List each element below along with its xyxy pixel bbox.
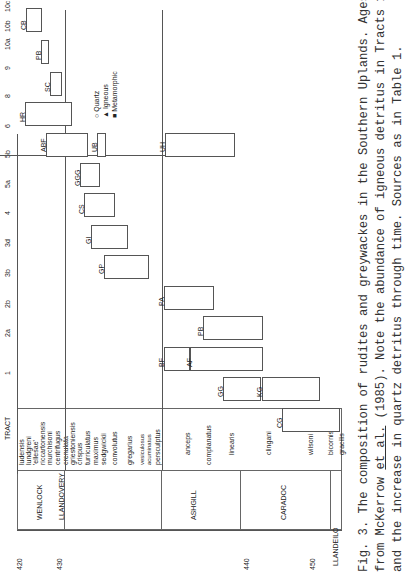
zone-label: gregarius <box>126 436 133 465</box>
zone-label: wilsoni <box>307 434 314 455</box>
quartz-icon: ○ <box>93 114 100 118</box>
unit-box-sc <box>50 72 62 96</box>
legend-igneous: ▲ Igneous <box>102 84 109 118</box>
unit-box-hr <box>25 102 72 126</box>
unit-label: KG <box>256 387 263 397</box>
unit-label: GGG <box>74 170 81 186</box>
igneous-icon: ▲ <box>102 111 109 118</box>
unit-box-af <box>190 347 263 371</box>
unit-box-ggg <box>80 163 100 187</box>
unit-label: CG <box>276 418 283 429</box>
unit-label: HR <box>19 112 26 122</box>
age-tick-440: 440 <box>243 558 250 570</box>
zone-label: acuminatus <box>146 434 152 465</box>
tract-label: 2a <box>4 329 11 337</box>
age-tick-420: 420 <box>16 558 23 570</box>
series-ashgill <box>161 470 241 530</box>
zone-label: bicornis <box>327 431 334 455</box>
tract-label: 3b <box>4 269 11 277</box>
tract-label-text: 4 <box>4 211 11 215</box>
unit-box-cg <box>282 408 340 432</box>
zone-label: riccartonensis <box>39 422 46 465</box>
caption-text: from McKerrow <box>374 470 388 572</box>
unit-label: PA <box>158 297 165 306</box>
zone-label: anceps <box>184 432 191 455</box>
zone-label: complanatus <box>205 425 212 465</box>
series-label: ASHGILL <box>190 490 197 520</box>
zone-label: linearis <box>228 433 235 455</box>
zone-label: centrifugus <box>54 431 61 465</box>
series-llandeilo <box>330 470 342 530</box>
zone-label: convolutus <box>111 432 118 465</box>
tract-boundary <box>162 10 163 470</box>
figure-caption-line-1: Fig. 3. The composition of rudites and g… <box>356 0 373 572</box>
series-label: LLANDEILO <box>332 527 339 566</box>
zone-label: persculptus <box>154 429 161 465</box>
unit-label: BF <box>158 358 165 367</box>
zone-label: griestoniensis <box>69 422 76 465</box>
tract-label: 10c <box>4 1 11 12</box>
unit-label: CB <box>20 20 27 30</box>
legend-label: Igneous <box>102 84 109 109</box>
series-label: CARADOC <box>280 485 287 520</box>
series-label: WENLOCK <box>36 485 43 520</box>
unit-box-cs <box>84 193 115 217</box>
unit-label: SC <box>44 82 51 92</box>
unit-box-uh <box>165 133 235 157</box>
tract-label: 1 <box>4 371 11 375</box>
unit-box-cb <box>26 8 42 32</box>
zone-label: lundgreni <box>25 436 32 465</box>
tract-label: 2b <box>4 300 11 308</box>
zone-label: gracilis <box>338 433 345 455</box>
tract-boundary <box>65 10 66 470</box>
unit-label: PB <box>35 51 42 60</box>
figure-caption-line-2: from McKerrow et al. (1985). Note the ab… <box>373 0 390 572</box>
zone-label: sedgwickii <box>100 433 107 465</box>
zone-label: maximus <box>92 437 99 465</box>
tract-label: 10b <box>4 20 11 32</box>
tract-label: 9 <box>4 66 11 70</box>
legend-quartz: ○ Quartz <box>93 91 100 118</box>
unit-label: AF <box>186 358 193 367</box>
legend-metamorphic: ■ Metamorphic <box>111 71 118 118</box>
unit-label: ABF <box>40 138 47 152</box>
tract-label: 8 <box>4 94 11 98</box>
legend-label: Quartz <box>93 91 100 112</box>
tract-label: 5a <box>4 180 11 188</box>
series-llandovery <box>64 470 162 530</box>
unit-box-gp <box>104 255 149 279</box>
unit-label: UB <box>91 142 98 152</box>
unit-box-ub <box>97 133 106 157</box>
caption-citation: et al. <box>374 426 388 470</box>
unit-box-pb2 <box>203 316 263 340</box>
unit-label: CS <box>78 204 85 214</box>
zone-label: crispus <box>76 443 83 465</box>
zone-label: ludensis <box>18 439 25 465</box>
tract-label: 3d <box>4 239 11 247</box>
unit-box-pa <box>164 286 214 310</box>
zone-label: 'ellesae' <box>32 440 39 465</box>
metamorphic-icon: ■ <box>111 114 118 118</box>
age-tick-430: 430 <box>56 558 63 570</box>
legend-label: Metamorphic <box>111 71 118 111</box>
unit-label: GP <box>98 264 105 274</box>
tract-boundary <box>17 134 18 474</box>
series-label: LLANDOVERY <box>58 473 65 520</box>
unit-label: GI <box>85 237 92 244</box>
unit-label: GG <box>217 386 224 397</box>
tract-axis-label: TRACT <box>4 417 11 440</box>
unit-label: UH <box>159 142 166 152</box>
unit-box-abf <box>46 133 88 157</box>
age-tick-450: 450 <box>309 558 316 570</box>
figure-caption-line-3: and the increase in quartz detritus thro… <box>390 45 407 572</box>
zone-label: vesiculosus <box>139 434 145 465</box>
unit-box-gi <box>91 225 128 249</box>
caption-text: (1985). Note the abundance of igneous de… <box>374 0 388 426</box>
unit-box-pb <box>41 40 49 64</box>
zone-label: clingani <box>265 431 272 455</box>
zone-label: murchisoni <box>46 431 53 465</box>
tract-label: 4 <box>4 211 11 215</box>
unit-label: PB <box>197 327 204 336</box>
tract-label: 6 <box>4 124 11 128</box>
tract-label: 10a <box>4 38 11 50</box>
